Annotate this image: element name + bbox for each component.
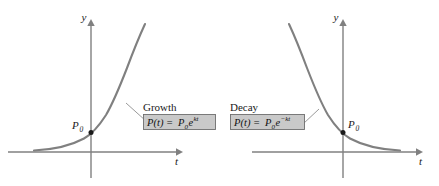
growth-initial-value-label: P 0: [71, 119, 84, 134]
decay-panel: y t P 0 Decay P (t) = P 0 e −kt: [230, 11, 423, 178]
growth-y-axis-arrowhead: [87, 19, 94, 26]
growth-formula-equals: =: [166, 117, 173, 128]
growth-formula-lhs-arg: (t): [154, 117, 164, 129]
growth-initial-value-dot: [89, 130, 94, 135]
exponential-figure: y t P 0 Growth P (t) = P 0 e kt: [0, 0, 439, 186]
decay-leader-line: [303, 109, 319, 124]
decay-p0-symbol: P: [347, 118, 355, 130]
figure-canvas: y t P 0 Growth P (t) = P 0 e kt: [0, 0, 439, 186]
decay-initial-value-dot: [341, 130, 346, 135]
growth-panel: y t P 0 Growth P (t) = P 0 e kt: [8, 11, 216, 178]
growth-x-axis: [8, 148, 183, 155]
decay-formula-equals: =: [253, 117, 260, 128]
decay-p0-subscript: 0: [356, 124, 360, 133]
growth-caption: Growth: [143, 101, 177, 113]
decay-formula-exponent: −kt: [281, 115, 292, 123]
growth-x-axis-label: t: [175, 155, 179, 167]
decay-formula-lhs-arg: (t): [241, 117, 251, 129]
decay-caption: Decay: [230, 101, 259, 113]
growth-y-axis-label: y: [81, 11, 87, 23]
decay-y-axis-label: y: [333, 11, 339, 23]
decay-initial-value-label: P 0: [347, 118, 360, 133]
growth-y-axis: [87, 19, 94, 178]
growth-p0-subscript: 0: [80, 125, 84, 134]
decay-y-axis: [339, 19, 346, 178]
growth-p0-symbol: P: [71, 119, 79, 131]
decay-x-axis-label: t: [419, 155, 423, 167]
decay-y-axis-arrowhead: [339, 19, 346, 26]
